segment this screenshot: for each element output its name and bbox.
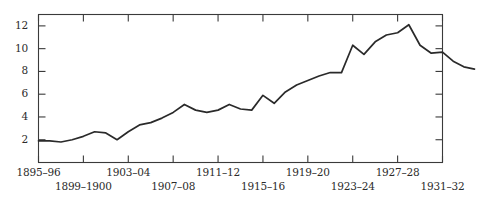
x-tick-label: 1895–96 xyxy=(17,166,61,178)
data-series-line xyxy=(39,25,475,142)
y-tick-label: 2 xyxy=(4,133,28,145)
x-tick-label: 1931–32 xyxy=(421,180,465,192)
x-tick-label: 1903–04 xyxy=(106,166,150,178)
y-axis-ticks-left xyxy=(39,26,46,140)
x-tick-label: 1915–16 xyxy=(241,180,285,192)
x-tick-label: 1899–1900 xyxy=(55,180,112,192)
y-tick-label: 8 xyxy=(4,64,28,76)
y-tick-label: 12 xyxy=(4,19,28,31)
y-tick-label: 4 xyxy=(4,110,28,122)
y-tick-label: 10 xyxy=(4,42,28,54)
x-tick-label: 1911–12 xyxy=(196,166,240,178)
chart-figure: 24681012 1895–961899–19001903–041907–081… xyxy=(0,0,481,200)
x-tick-label: 1919–20 xyxy=(286,166,330,178)
x-axis-ticks-top xyxy=(39,15,443,22)
x-axis-ticks-bottom xyxy=(39,156,443,163)
x-tick-label: 1923–24 xyxy=(331,180,375,192)
x-tick-label: 1907–08 xyxy=(151,180,195,192)
y-axis-ticks-right xyxy=(436,26,443,140)
x-tick-label: 1927–28 xyxy=(376,166,420,178)
plot-frame xyxy=(39,15,443,163)
y-tick-label: 6 xyxy=(4,87,28,99)
